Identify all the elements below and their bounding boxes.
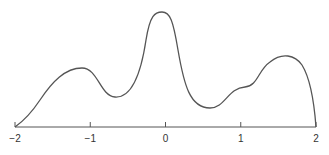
- x-axis-ticks: [15, 122, 316, 127]
- x-tick-label: 1: [238, 133, 244, 144]
- x-tick-label: −2: [9, 133, 21, 144]
- x-tick-label: 0: [163, 133, 169, 144]
- density-curve: [15, 12, 316, 127]
- x-axis-labels: −2−1012: [9, 133, 319, 144]
- line-chart: −2−1012: [0, 0, 329, 155]
- x-tick-label: 2: [313, 133, 319, 144]
- x-tick-label: −1: [85, 133, 97, 144]
